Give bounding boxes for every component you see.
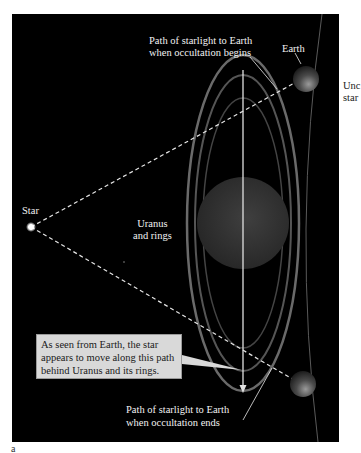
label-uranus: Uranus and rings [133,218,172,242]
label-line: Uranus [133,218,172,230]
callout-box: As seen from Earth, the star appears to … [36,334,182,379]
label-line: when occultation ends [126,416,229,429]
label-cutoff-right: Unc star [343,80,361,104]
label-line: Unc [343,80,361,92]
callout-pointer [182,355,242,370]
label-star: Star [22,205,39,217]
panel-label: a [11,443,15,453]
callout-line: appears to move along this path [41,351,181,364]
callout-line: As seen from Earth, the star [41,338,181,351]
label-earth: Earth [282,43,305,55]
label-line: star [343,92,361,104]
label-line: Path of starlight to Earth [126,403,229,416]
label-line: when occultation begins [149,47,252,59]
label-path-end: Path of starlight to Earth when occultat… [126,403,229,429]
earth-top-icon [293,66,319,92]
label-line: Path of starlight to Earth [149,35,252,47]
earth-bottom-icon [290,371,316,397]
callout-line: behind Uranus and its rings. [41,364,181,377]
star-icon [26,222,36,232]
label-line: and rings [133,230,172,242]
label-path-begin: Path of starlight to Earth when occultat… [149,35,252,59]
